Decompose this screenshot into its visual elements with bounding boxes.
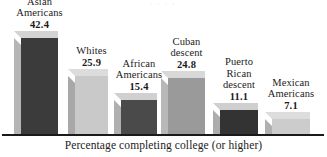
chart-bar-category-line: Americans xyxy=(99,69,179,80)
chart-bar-side-face xyxy=(14,38,21,135)
chart-bar-category-line: Asian xyxy=(0,0,80,7)
chart-bar-front-face xyxy=(121,100,157,135)
chart-bar-front-face xyxy=(272,119,310,135)
chart-bar-side-face xyxy=(114,100,121,135)
chart-bar-value-label: 42.4 xyxy=(0,19,80,30)
chart-bar xyxy=(272,119,310,135)
chart-bar-label: AsianAmericans42.4 xyxy=(0,0,80,30)
chart-bar-side-face xyxy=(265,119,272,135)
chart-bar-category-line: Puerto xyxy=(198,56,280,67)
chart-bar xyxy=(220,110,258,135)
chart-bar-category-line: Americans xyxy=(0,7,80,18)
chart-bar-category-line: Cuban xyxy=(146,36,227,47)
chart-bar-category-line: Whites xyxy=(53,45,130,56)
chart-bar-side-face xyxy=(213,110,220,135)
bar-chart-figure: . . . . Percentage completing college (o… xyxy=(0,0,327,157)
chart-baseline-axis xyxy=(2,134,324,136)
chart-bar-top-face xyxy=(14,31,58,38)
chart-bar-top-face xyxy=(114,93,157,100)
chart-bar-value-label: 15.4 xyxy=(99,81,179,92)
chart-bar-category-line: Mexican xyxy=(250,77,327,88)
chart-bar xyxy=(121,100,157,135)
chart-bar-side-face xyxy=(68,76,75,135)
chart-bar-top-face xyxy=(265,112,310,119)
chart-bar-label: MexicanAmericans7.1 xyxy=(250,77,327,111)
chart-bar-front-face xyxy=(220,110,258,135)
chart-bar-value-label: 7.1 xyxy=(250,100,327,111)
chart-bar-category-line: Americans xyxy=(250,88,327,99)
x-axis-caption: Percentage completing college (or higher… xyxy=(0,139,327,151)
